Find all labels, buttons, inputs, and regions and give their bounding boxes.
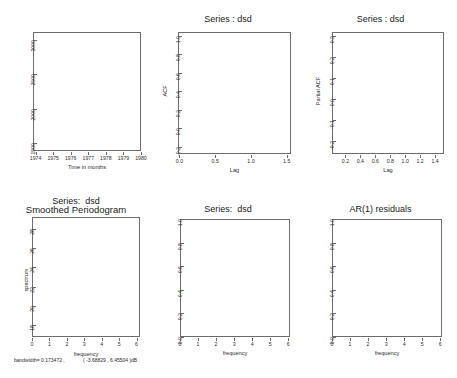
axis-tick-mark xyxy=(179,54,182,55)
axis-tick-mark xyxy=(33,306,36,307)
axis-tick-mark xyxy=(215,155,216,158)
axis-tick-label: 6 xyxy=(431,341,449,347)
axis-tick-label: 2000 xyxy=(30,109,36,127)
axis-tick-mark xyxy=(234,338,235,341)
axis-tick-mark xyxy=(179,91,182,92)
axis-tick-mark xyxy=(345,155,346,158)
axis-tick-mark xyxy=(179,128,182,129)
axis-tick-label: 0.2 xyxy=(329,57,335,75)
axis-tick-label: 0.8 xyxy=(329,243,335,261)
axis-tick-mark xyxy=(179,73,182,74)
acf-xlabel: Lag xyxy=(178,167,291,173)
axis-tick-label: 3 xyxy=(75,341,93,347)
axis-tick-mark xyxy=(34,40,37,41)
axis-tick-label: 0.8 xyxy=(177,243,183,261)
axis-tick-mark xyxy=(179,155,180,158)
axis-tick-mark xyxy=(368,338,369,341)
axis-tick-mark xyxy=(102,338,103,341)
axis-tick-label: 0.0 xyxy=(329,99,335,117)
axis-tick-mark xyxy=(252,338,253,341)
axis-tick-mark xyxy=(420,155,421,158)
axis-tick-label: 0 xyxy=(323,341,341,347)
axis-tick-mark xyxy=(333,313,336,314)
axis-tick-label: 2 xyxy=(207,341,225,347)
axis-tick-mark xyxy=(49,338,50,341)
axis-tick-mark xyxy=(34,109,37,110)
axis-tick-mark xyxy=(34,143,37,144)
axis-tick-mark xyxy=(251,155,252,158)
axis-tick-label: 0 xyxy=(171,341,189,347)
axis-tick-label: 4 xyxy=(395,341,413,347)
axis-tick-mark xyxy=(179,147,182,148)
axis-tick-label: 24 xyxy=(29,267,35,285)
axis-tick-label: 0.6 xyxy=(177,266,183,284)
spectrum-subtitle: Smoothed Periodogram xyxy=(0,205,152,215)
axis-tick-mark xyxy=(53,152,54,155)
axis-tick-mark xyxy=(375,155,376,158)
axis-tick-mark xyxy=(181,337,184,338)
axis-tick-label: -0.2 xyxy=(329,141,335,159)
axis-tick-label: 0.2 xyxy=(329,313,335,331)
panel-spectrum: Series: dsd Smoothed Periodogram spectru… xyxy=(0,189,152,378)
axis-tick-mark xyxy=(288,338,289,341)
axis-tick-mark xyxy=(333,290,336,291)
axis-tick-mark xyxy=(181,243,184,244)
axis-tick-label: 5 xyxy=(110,341,128,347)
axis-tick-label: 1975 xyxy=(44,155,62,161)
axis-tick-label: 1974 xyxy=(27,155,45,161)
axis-tick-label: 4 xyxy=(93,341,111,347)
axis-tick-mark xyxy=(440,338,441,341)
plot-frame xyxy=(178,32,291,154)
cpgram-ar1-xlabel: frequency xyxy=(332,350,442,356)
axis-tick-label: 0.4 xyxy=(329,290,335,308)
axis-tick-mark xyxy=(390,155,391,158)
pacf-ylabel: Partial ACF xyxy=(315,67,321,115)
axis-tick-label: 0.2 xyxy=(177,313,183,331)
axis-tick-mark xyxy=(84,338,85,341)
axis-tick-mark xyxy=(350,338,351,341)
axis-tick-label: 1.0 xyxy=(175,36,181,54)
axis-tick-label: 3 xyxy=(377,341,395,347)
panel-timeseries: Time in months 1500200025003000197419751… xyxy=(0,0,152,189)
axis-tick-label: 1.5 xyxy=(278,158,296,164)
axis-tick-mark xyxy=(36,152,37,155)
axis-tick-mark xyxy=(405,155,406,158)
axis-tick-label: 0.4 xyxy=(175,91,181,109)
axis-tick-label: 1 xyxy=(40,341,58,347)
axis-tick-mark xyxy=(270,338,271,341)
axis-tick-label: 22 xyxy=(29,287,35,305)
axis-tick-mark xyxy=(333,219,336,220)
axis-tick-mark xyxy=(34,74,37,75)
panel-cpgram-dsd: Series: dsd frequency 0.00.20.40.60.81.0… xyxy=(152,189,304,378)
axis-tick-label: 0.5 xyxy=(206,158,224,164)
axis-tick-mark xyxy=(33,229,36,230)
axis-tick-label: 1.0 xyxy=(242,158,260,164)
axis-tick-label: 1.0 xyxy=(329,219,335,237)
pacf-plot-area xyxy=(332,32,444,154)
axis-tick-mark xyxy=(360,155,361,158)
axis-tick-mark xyxy=(33,267,36,268)
axis-tick-mark xyxy=(179,110,182,111)
acf-plot-area xyxy=(178,32,291,154)
axis-tick-label: -0.1 xyxy=(329,120,335,138)
axis-tick-mark xyxy=(106,152,107,155)
plot-frame xyxy=(180,219,290,337)
axis-tick-label: 1977 xyxy=(79,155,97,161)
axis-tick-label: 1976 xyxy=(62,155,80,161)
axis-tick-label: 0.2 xyxy=(175,110,181,128)
axis-tick-label: 1.4 xyxy=(426,158,444,164)
axis-tick-mark xyxy=(33,287,36,288)
axis-tick-mark xyxy=(198,338,199,341)
timeseries-xlabel: Time in months xyxy=(33,164,141,170)
axis-tick-mark xyxy=(123,152,124,155)
axis-tick-mark xyxy=(141,152,142,155)
spectrum-footnote-left: bandwidth= 0.173472 , xyxy=(14,357,65,363)
cpgram-dsd-xlabel: frequency xyxy=(180,350,290,356)
axis-tick-mark xyxy=(180,338,181,341)
axis-tick-label: 1 xyxy=(189,341,207,347)
axis-tick-mark xyxy=(216,338,217,341)
axis-tick-mark xyxy=(333,99,336,100)
plot-frame xyxy=(33,32,141,151)
axis-tick-label: 5 xyxy=(413,341,431,347)
axis-tick-mark xyxy=(119,338,120,341)
